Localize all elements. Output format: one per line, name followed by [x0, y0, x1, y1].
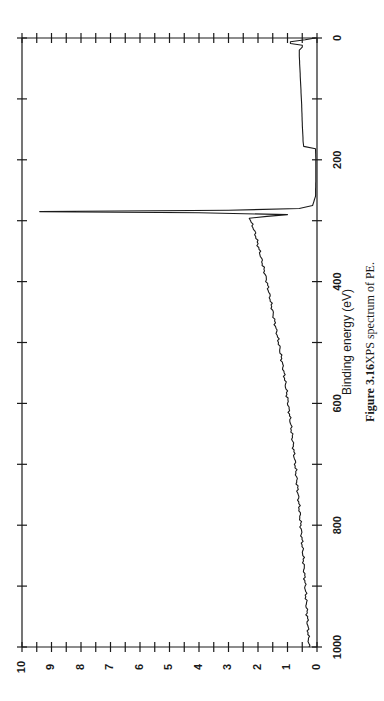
tick-marks: [17, 33, 322, 652]
xps-chart: 02004006008001000012345678910 Binding en…: [0, 0, 384, 701]
intensity-tick-label: 7: [103, 664, 115, 670]
intensity-tick-label: 2: [251, 664, 263, 670]
figure-caption: Figure 3.16XPS spectrum of PE.: [363, 262, 377, 422]
energy-tick-label: 0: [331, 35, 343, 41]
intensity-tick-label: 10: [15, 661, 27, 673]
intensity-tick-label: 9: [44, 664, 56, 670]
energy-tick-label: 400: [331, 272, 343, 290]
spectrum-line: [40, 38, 316, 647]
axes: [22, 38, 317, 647]
energy-tick-label: 800: [331, 516, 343, 534]
intensity-tick-label: 3: [221, 664, 233, 670]
intensity-tick-label: 4: [192, 663, 204, 670]
energy-tick-label: 1000: [331, 635, 343, 659]
intensity-tick-label: 8: [74, 664, 86, 670]
intensity-tick-label: 1: [280, 664, 292, 670]
energy-tick-label: 200: [331, 151, 343, 169]
tick-labels: 02004006008001000012345678910: [15, 35, 343, 673]
caption-text: XPS spectrum of PE.: [363, 262, 377, 364]
x-axis-label: Binding energy (eV): [340, 289, 354, 395]
intensity-tick-label: 6: [133, 664, 145, 670]
energy-tick-label: 600: [331, 394, 343, 412]
caption-number: Figure 3.16: [363, 364, 377, 422]
intensity-tick-label: 5: [162, 664, 174, 670]
intensity-tick-label: 0: [310, 664, 322, 670]
